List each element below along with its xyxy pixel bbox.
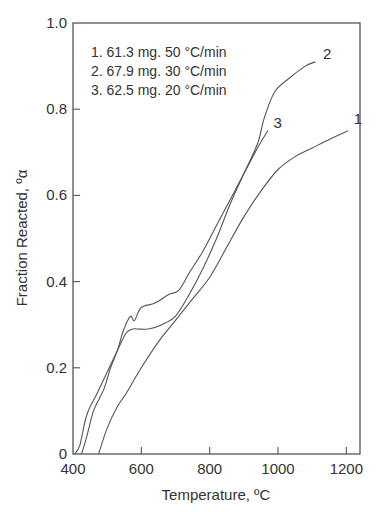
curve-label-1: 1 xyxy=(354,110,362,127)
series-3-line xyxy=(82,131,268,454)
y-tick-label: 0.8 xyxy=(46,100,67,117)
x-tick-label: 1200 xyxy=(330,460,363,477)
y-tick-label: 0.4 xyxy=(46,273,67,290)
y-axis: 00.20.40.60.81.0 xyxy=(46,14,80,462)
curve-labels: 123 xyxy=(273,45,362,131)
x-tick-label: 600 xyxy=(129,460,154,477)
y-axis-title: Fraction Reacted, ºα xyxy=(13,169,30,306)
y-tick-label: 1.0 xyxy=(46,14,67,31)
x-axis: 40060080010001200 xyxy=(60,447,363,477)
legend-entry: 3. 62.5 mg. 20 °C/min xyxy=(91,82,227,98)
x-axis-title: Temperature, ºC xyxy=(162,486,271,503)
legend: 1. 61.3 mg. 50 °C/min2. 67.9 mg. 30 °C/m… xyxy=(91,44,227,98)
x-tick-label: 400 xyxy=(60,460,85,477)
series-1-line xyxy=(99,131,348,454)
y-tick-label: 0.6 xyxy=(46,186,67,203)
legend-entry: 1. 61.3 mg. 50 °C/min xyxy=(91,44,227,60)
data-series xyxy=(75,62,348,454)
y-tick-label: 0.2 xyxy=(46,359,67,376)
curve-label-2: 2 xyxy=(323,45,331,62)
y-tick-label: 0 xyxy=(59,445,67,462)
curve-label-3: 3 xyxy=(273,114,281,131)
legend-entry: 2. 67.9 mg. 30 °C/min xyxy=(91,63,227,79)
x-tick-label: 800 xyxy=(197,460,222,477)
chart-canvas: 40060080010001200 00.20.40.60.81.0 123 1… xyxy=(0,0,377,517)
x-tick-label: 1000 xyxy=(261,460,294,477)
